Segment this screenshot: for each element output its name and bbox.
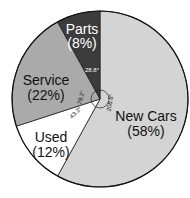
label-new-cars-pct: (58%) [127, 123, 164, 139]
label-parts-pct: (8%) [67, 35, 97, 51]
label-used-name: Used [35, 129, 68, 145]
label-used-pct: (12%) [32, 144, 69, 160]
label-new-cars-name: New Cars [115, 108, 176, 124]
label-service-name: Service [23, 72, 70, 88]
angle-parts: 28.8° [85, 67, 100, 73]
pie-chart: New Cars (58%) Used (12%) Service (22%) … [0, 0, 190, 198]
label-service-pct: (22%) [27, 87, 64, 103]
